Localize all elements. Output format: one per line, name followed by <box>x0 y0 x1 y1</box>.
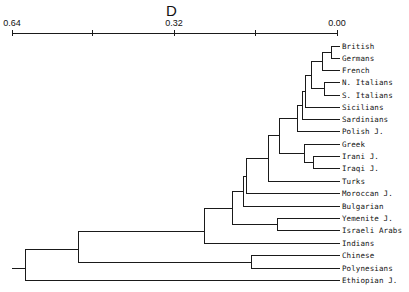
leaf-label: S. Italians <box>342 91 393 100</box>
leaf-label: Sicilians <box>342 103 384 112</box>
leaf-label: Irani J. <box>342 152 379 161</box>
leaf-label: Polynesians <box>342 264 393 273</box>
leaf-label: N. Italians <box>342 78 393 87</box>
leaf-label: Turks <box>342 177 365 186</box>
leaf-label: French <box>342 66 370 75</box>
leaf-label: Indians <box>342 239 374 248</box>
leaf-label: Israeli Arabs <box>342 226 402 235</box>
leaf-label: Moroccan J. <box>342 189 393 198</box>
leaf-label: Yemenite J. <box>342 214 393 223</box>
branches <box>12 46 340 280</box>
leaf-label: Iraqi J. <box>342 164 379 173</box>
leaf-label: Greek <box>342 140 365 149</box>
leaf-label: Sardinians <box>342 115 388 124</box>
leaf-label: Polish J. <box>342 127 384 136</box>
leaf-label: Germans <box>342 54 374 63</box>
leaf-label: British <box>342 42 374 51</box>
dendrogram: D 0.64 0.32 0.00 <box>0 0 409 292</box>
leaf-label: Chinese <box>342 251 374 260</box>
leaf-label: Ethiopian J. <box>342 276 397 285</box>
distance-axis <box>12 30 337 36</box>
leaf-label: Bulgarian <box>342 202 384 211</box>
